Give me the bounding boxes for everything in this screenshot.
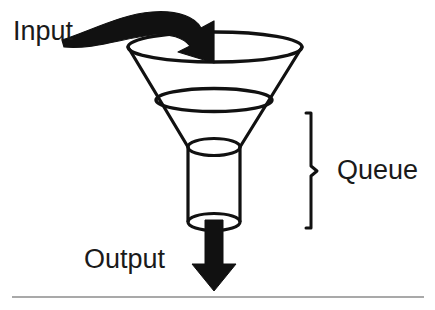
output-label: Output [84, 246, 165, 273]
queue-label: Queue [337, 157, 418, 184]
queue-neck-cylinder [188, 147, 240, 222]
funnel-mid-rim [156, 89, 272, 112]
funnel-top-rim [128, 32, 302, 62]
queue-brace [306, 113, 317, 228]
diagram-canvas: Input Output Queue [0, 0, 435, 310]
input-label: Input [13, 18, 73, 45]
output-down-arrow [192, 220, 236, 291]
queue-neck-top-rim [188, 139, 240, 156]
